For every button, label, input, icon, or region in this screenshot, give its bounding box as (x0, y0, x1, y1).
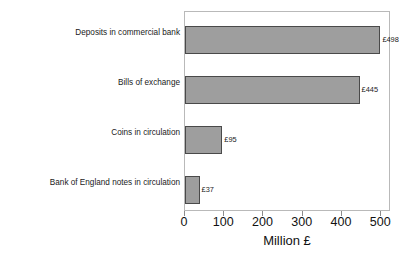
bar-bills-of-exchange[interactable] (185, 76, 360, 104)
bar-value-label: £37 (200, 186, 214, 193)
bar-value-label: £95 (222, 136, 236, 143)
bar-bank-of-england-notes-in-circulation[interactable] (185, 176, 200, 204)
x-axis-tick-label: 100 (213, 216, 234, 229)
x-axis-tick-label: 200 (252, 216, 273, 229)
x-axis-tick-label: 500 (370, 216, 391, 229)
plot-area: £498 £445 £95 £37 (184, 11, 390, 211)
category-label-bank-of-england-notes-in-circulation: Bank of England notes in circulation (50, 179, 180, 187)
x-axis-tick-label: 0 (181, 216, 188, 229)
bar-coins-in-circulation[interactable] (185, 126, 222, 154)
bar-value-label: £498 (380, 36, 398, 43)
x-axis-tick-label: 400 (331, 216, 352, 229)
category-label-bills-of-exchange: Bills of exchange (118, 79, 180, 87)
bar-value-label: £445 (360, 86, 378, 93)
category-axis: Deposits in commercial bank Bills of exc… (0, 0, 180, 212)
x-axis-title: Million £ (184, 234, 390, 247)
bar-chart: Deposits in commercial bank Bills of exc… (0, 0, 411, 265)
category-label-deposits-in-commercial-bank: Deposits in commercial bank (75, 29, 180, 37)
category-label-coins-in-circulation: Coins in circulation (111, 129, 180, 137)
bar-deposits-in-commercial-bank[interactable] (185, 26, 380, 54)
x-axis-tick-label: 300 (291, 216, 312, 229)
